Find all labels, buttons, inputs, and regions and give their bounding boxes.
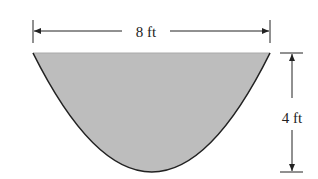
height-label: 4 ft <box>282 110 303 126</box>
width-label: 8 ft <box>136 24 157 40</box>
diagram-canvas: 8 ft 4 ft <box>0 0 318 179</box>
parabola-diagram: 8 ft 4 ft <box>0 0 318 179</box>
